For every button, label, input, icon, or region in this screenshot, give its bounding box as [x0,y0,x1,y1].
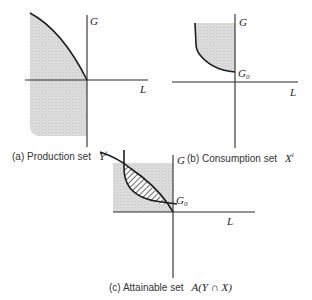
caption-a-text: (a) Production set [12,151,91,162]
point-label-g0: G0 [176,194,188,208]
caption-b-superscript: i [292,151,294,159]
point-label-g0: G0 [238,67,250,81]
panel-production-set: G L (a) Production set Yj [12,13,148,163]
axis-label-g: G [239,16,247,28]
point-label-g0-main: G [238,67,246,79]
figure: G L (a) Production set Yj G L G0 (b) Con… [0,0,312,300]
axis-label-l: L [226,215,233,227]
axis-label-l: L [289,86,296,98]
production-set-region [30,13,87,136]
panel-consumption-set: G L G0 (b) Consumption set Xi [172,14,298,165]
caption-c-text: (c) Attainable set [109,282,184,293]
axis-label-g: G [90,15,98,27]
axis-label-l: L [139,83,146,95]
panel-attainable-set: G L G0 (c) Attainable set A(Y ∩ X) [100,150,255,294]
point-label-g0-sub: 0 [184,200,188,208]
caption-a: (a) Production set Yj [12,146,107,163]
caption-c-symbol: A(Y ∩ X) [190,281,232,294]
consumption-set-region [195,23,235,72]
caption-b-text: (b) Consumption set [187,153,277,164]
axis-label-g: G [177,154,185,166]
caption-c: (c) Attainable set A(Y ∩ X) [109,277,232,294]
point-label-g0-main: G [176,194,184,206]
caption-b: (b) Consumption set Xi [187,148,294,165]
point-label-g0-sub: 0 [246,73,250,81]
